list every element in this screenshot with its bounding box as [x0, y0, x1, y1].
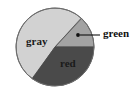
pie-label-red: red	[60, 57, 76, 69]
pie-label-green: green	[103, 27, 129, 39]
pie-label-gray: gray	[26, 35, 48, 47]
callout-dot-green	[76, 33, 80, 37]
pie-chart-figure: gray red green	[0, 0, 134, 89]
